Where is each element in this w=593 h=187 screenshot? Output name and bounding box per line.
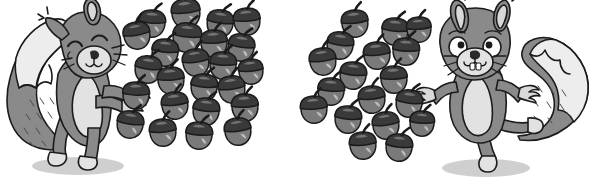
acorn-cap [335, 105, 363, 121]
acorn-cap [386, 133, 414, 149]
illustration-canvas [0, 0, 593, 187]
acorn-cap [382, 17, 410, 33]
acorn-cap [410, 110, 436, 123]
acorn-cap [340, 61, 368, 77]
right-acorn-cluster [0, 0, 593, 187]
